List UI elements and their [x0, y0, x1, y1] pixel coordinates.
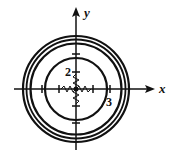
diagram-canvas — [0, 0, 175, 162]
label-2: 2 — [65, 66, 71, 78]
y-axis-label: y — [84, 6, 90, 19]
x-axis-label: x — [159, 82, 166, 95]
label-3: 3 — [106, 96, 112, 108]
origin-dot — [74, 87, 79, 92]
